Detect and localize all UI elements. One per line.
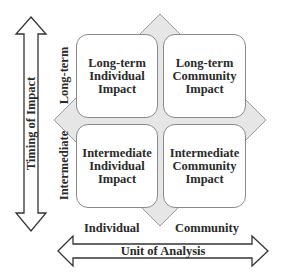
- x-level-individual: Individual: [84, 221, 140, 236]
- x-axis-title: Unit of Analysis: [0, 244, 283, 259]
- x-level-community: Community: [175, 221, 239, 236]
- quadrant-intermediate-individual: Intermediate Individual Impact: [76, 124, 158, 208]
- y-axis-title: Timing of Impact: [24, 74, 39, 174]
- quadrant-long-term-community: Long-term Community Impact: [163, 34, 246, 118]
- quadrant-label: Long-term Individual Impact: [88, 57, 146, 96]
- quadrant-label: Intermediate Community Impact: [170, 147, 239, 186]
- quadrant-label: Intermediate Individual Impact: [82, 147, 151, 186]
- y-level-long-term: Long-term: [57, 41, 72, 111]
- quadrant-intermediate-community: Intermediate Community Impact: [163, 124, 246, 208]
- y-level-intermediate: Intermediate: [57, 126, 72, 206]
- quadrant-label: Long-term Community Impact: [173, 57, 237, 96]
- quadrant-long-term-individual: Long-term Individual Impact: [76, 34, 158, 118]
